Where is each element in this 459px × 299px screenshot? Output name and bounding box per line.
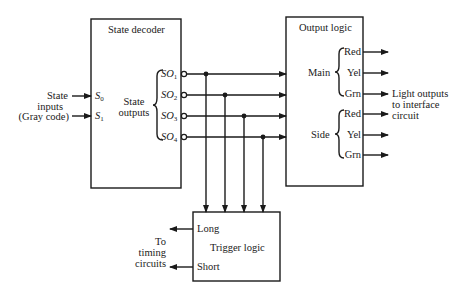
side-red: Red bbox=[340, 108, 361, 119]
trigger-long: Long bbox=[197, 223, 219, 234]
output-so4: SO4 bbox=[161, 131, 177, 146]
junction-dot bbox=[261, 135, 266, 140]
output-so3: SO3 bbox=[161, 110, 177, 125]
output-so2: SO2 bbox=[161, 89, 177, 104]
trigger-logic-title: Trigger logic bbox=[210, 242, 265, 253]
so3-bubble bbox=[181, 113, 186, 118]
light-outputs-label-1: Light outputs bbox=[392, 88, 448, 99]
side-yel: Yel bbox=[340, 129, 361, 140]
output-logic-box bbox=[286, 17, 363, 186]
input-s1: S1 bbox=[95, 110, 104, 125]
light-outputs-label-2: to interface bbox=[392, 99, 440, 110]
junction-dot bbox=[223, 93, 228, 98]
diagram-wires bbox=[0, 0, 459, 299]
state-inputs-label-3: (Gray code) bbox=[0, 111, 69, 122]
output-logic-title: Output logic bbox=[299, 22, 352, 33]
light-outputs-label-3: circuit bbox=[392, 110, 419, 121]
state-outputs-label-1: State bbox=[116, 96, 152, 107]
main-grn: Grn bbox=[340, 88, 361, 99]
main-yel: Yel bbox=[340, 67, 361, 78]
so1-bubble bbox=[181, 71, 186, 76]
junction-dot bbox=[204, 72, 209, 77]
junction-dot bbox=[242, 114, 247, 119]
state-decoder-title: State decoder bbox=[108, 24, 165, 35]
state-inputs-label-1: State bbox=[10, 90, 68, 101]
group-main-label: Main bbox=[308, 67, 330, 78]
main-red: Red bbox=[340, 46, 361, 57]
state-outputs-label-2: outputs bbox=[116, 107, 152, 118]
so4-bubble bbox=[181, 134, 186, 139]
timing-label-2: timing bbox=[120, 247, 166, 258]
output-so1: SO1 bbox=[161, 68, 177, 83]
side-grn: Grn bbox=[340, 149, 361, 160]
trigger-short: Short bbox=[197, 261, 220, 272]
so2-bubble bbox=[181, 92, 186, 97]
timing-label-3: circuits bbox=[110, 258, 166, 269]
input-s0: S0 bbox=[95, 90, 104, 105]
group-side-label: Side bbox=[311, 129, 330, 140]
timing-label-1: To bbox=[120, 236, 166, 247]
